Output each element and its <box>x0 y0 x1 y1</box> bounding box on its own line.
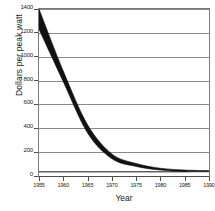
x-tick-label: 1975 <box>130 182 141 188</box>
x-tick-mark <box>112 177 113 181</box>
x-tick-label: 1965 <box>82 182 93 188</box>
y-axis-title: Dollars per peak watt <box>14 0 24 130</box>
x-tick-label: 1955 <box>33 182 44 188</box>
x-tick-mark <box>88 177 89 181</box>
x-tick-mark <box>136 177 137 181</box>
x-tick-mark <box>160 177 161 181</box>
x-tick-label: 1970 <box>106 182 117 188</box>
x-axis-title: Year <box>38 193 210 203</box>
x-tick-label: 1960 <box>58 182 69 188</box>
x-tick-label: 1990 <box>203 182 214 188</box>
chart-container: 0200400600800100012001400 19551960196519… <box>0 0 215 211</box>
x-tick-mark <box>185 177 186 181</box>
x-axis: 19551960196519701975198019851990 <box>0 0 215 211</box>
x-tick-label: 1980 <box>155 182 166 188</box>
x-tick-mark <box>209 177 210 181</box>
x-tick-mark <box>63 177 64 181</box>
x-tick-mark <box>39 177 40 181</box>
x-tick-label: 1985 <box>179 182 190 188</box>
